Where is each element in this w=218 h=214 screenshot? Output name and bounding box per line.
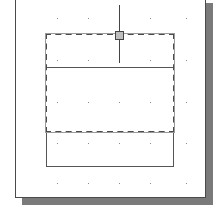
grid-dot — [186, 143, 187, 144]
canvas-shadow-right — [205, 3, 213, 205]
grid-dot — [186, 18, 187, 19]
grip-handle-icon[interactable] — [115, 31, 124, 40]
grid-dot — [186, 60, 187, 61]
divider-line[interactable] — [47, 67, 173, 68]
grid-dot — [186, 102, 187, 103]
grid-dot — [57, 18, 58, 19]
grid-dot — [186, 183, 187, 184]
grid-dot — [119, 183, 120, 184]
grid-dot — [57, 183, 58, 184]
grid-dot — [150, 18, 151, 19]
grid-dot — [150, 183, 151, 184]
canvas-shadow-bottom — [22, 198, 213, 205]
grid-dot — [88, 18, 89, 19]
selected-rectangle[interactable] — [45, 33, 175, 133]
grid-dot — [88, 183, 89, 184]
lower-rectangle[interactable] — [46, 133, 174, 167]
